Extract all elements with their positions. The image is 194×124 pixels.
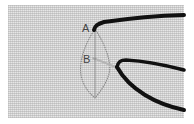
needle [93,58,118,68]
label-point-a: A [82,23,89,34]
thread-from-a [94,15,184,30]
thread-loop-lower [117,67,184,110]
stitch-diagram [0,0,194,124]
point-b-marker [94,58,97,61]
thread-loop-upper [117,60,184,70]
label-point-b: B [83,54,90,65]
